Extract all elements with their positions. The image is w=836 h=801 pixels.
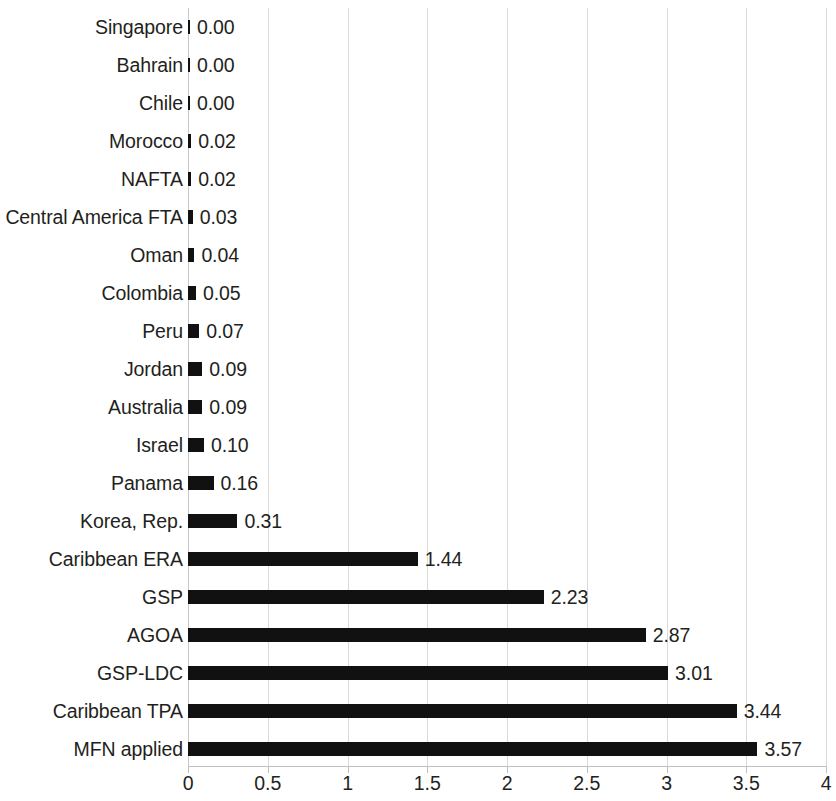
category-label: NAFTA (121, 160, 183, 198)
category-label: Bahrain (116, 46, 183, 84)
bar-value-label: 0.10 (211, 426, 249, 464)
bar[interactable] (188, 742, 757, 756)
bar-value-label: 0.09 (209, 388, 247, 426)
bar-row: Morocco0.02 (0, 122, 831, 160)
bar-value-label: 3.01 (675, 654, 713, 692)
category-label: Oman (130, 236, 183, 274)
bar-value-label: 0.31 (244, 502, 282, 540)
x-tick-label: 0.5 (228, 772, 308, 795)
bar[interactable] (188, 704, 737, 718)
bar[interactable] (188, 134, 191, 148)
x-tick-label: 1 (308, 772, 388, 795)
bar-value-label: 0.09 (209, 350, 247, 388)
category-label: AGOA (127, 616, 183, 654)
bar-row: Singapore0.00 (0, 8, 831, 46)
category-label: Korea, Rep. (80, 502, 183, 540)
bar[interactable] (188, 552, 418, 566)
bar-row: Caribbean TPA3.44 (0, 692, 831, 730)
x-tick-label: 0 (148, 772, 228, 795)
bar-rows: Singapore0.00Bahrain0.00Chile0.00Morocco… (0, 8, 831, 766)
bar-row: Central America FTA0.03 (0, 198, 831, 236)
bar[interactable] (188, 96, 190, 110)
bar[interactable] (188, 590, 544, 604)
bar[interactable] (188, 476, 214, 490)
bar[interactable] (188, 438, 204, 452)
bar-row: Korea, Rep.0.31 (0, 502, 831, 540)
bar-row: Colombia0.05 (0, 274, 831, 312)
bar-value-label: 2.23 (551, 578, 589, 616)
bar-value-label: 0.02 (198, 160, 236, 198)
bar-value-label: 0.00 (197, 46, 235, 84)
category-label: Caribbean TPA (53, 692, 183, 730)
x-tick-label: 3 (627, 772, 707, 795)
category-label: Australia (108, 388, 183, 426)
bar-row: GSP-LDC3.01 (0, 654, 831, 692)
x-tick-label: 2 (467, 772, 547, 795)
bar-row: GSP2.23 (0, 578, 831, 616)
bar-row: Chile0.00 (0, 84, 831, 122)
bar[interactable] (188, 248, 194, 262)
bar-value-label: 0.16 (221, 464, 259, 502)
bar-value-label: 3.44 (744, 692, 782, 730)
bar[interactable] (188, 324, 199, 338)
bar-value-label: 0.00 (197, 84, 235, 122)
bar-value-label: 3.57 (764, 730, 802, 768)
bar[interactable] (188, 20, 190, 34)
category-label: Morocco (109, 122, 183, 160)
bar-value-label: 0.07 (206, 312, 244, 350)
bar[interactable] (188, 286, 196, 300)
bar[interactable] (188, 514, 237, 528)
bar-value-label: 0.05 (203, 274, 241, 312)
category-label: Singapore (95, 8, 183, 46)
bar-value-label: 2.87 (653, 616, 691, 654)
bar-row: MFN applied3.57 (0, 730, 831, 768)
bar-row: Peru0.07 (0, 312, 831, 350)
bar-row: Bahrain0.00 (0, 46, 831, 84)
category-label: Colombia (101, 274, 183, 312)
category-label: Caribbean ERA (49, 540, 183, 578)
x-tick-label: 3.5 (706, 772, 786, 795)
bar[interactable] (188, 362, 202, 376)
bar-row: Israel0.10 (0, 426, 831, 464)
category-label: Panama (111, 464, 183, 502)
bar-row: Oman0.04 (0, 236, 831, 274)
category-label: Central America FTA (5, 198, 183, 236)
bar-row: NAFTA0.02 (0, 160, 831, 198)
category-label: MFN applied (74, 730, 183, 768)
bar[interactable] (188, 666, 668, 680)
category-label: GSP-LDC (97, 654, 183, 692)
category-label: Chile (139, 84, 183, 122)
bar[interactable] (188, 58, 190, 72)
x-tick-label: 1.5 (387, 772, 467, 795)
category-label: GSP (142, 578, 183, 616)
category-label: Jordan (124, 350, 183, 388)
x-tick-label: 4 (786, 772, 836, 795)
bar-row: Panama0.16 (0, 464, 831, 502)
bar-row: Caribbean ERA1.44 (0, 540, 831, 578)
category-label: Israel (136, 426, 183, 464)
bar-value-label: 0.00 (197, 8, 235, 46)
bar-row: AGOA2.87 (0, 616, 831, 654)
bar-value-label: 0.02 (198, 122, 236, 160)
bar-value-label: 0.03 (200, 198, 238, 236)
bar[interactable] (188, 400, 202, 414)
bar-value-label: 0.04 (201, 236, 239, 274)
bar[interactable] (188, 210, 193, 224)
bar[interactable] (188, 628, 646, 642)
x-tick-label: 2.5 (547, 772, 627, 795)
category-label: Peru (142, 312, 183, 350)
bar-row: Australia0.09 (0, 388, 831, 426)
bar-row: Jordan0.09 (0, 350, 831, 388)
bar-value-label: 1.44 (425, 540, 463, 578)
bar[interactable] (188, 172, 191, 186)
